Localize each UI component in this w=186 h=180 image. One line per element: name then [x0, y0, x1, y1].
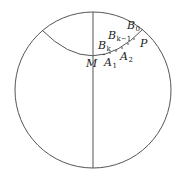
- label-bk-minus-1: Bk−1: [108, 30, 131, 43]
- label-a2: A2: [120, 51, 133, 64]
- label-m: M: [86, 58, 97, 69]
- label-p: P: [140, 38, 147, 49]
- label-a1: A1: [104, 57, 117, 70]
- label-bk: Bk: [98, 40, 111, 53]
- circle-diagram: [0, 0, 186, 180]
